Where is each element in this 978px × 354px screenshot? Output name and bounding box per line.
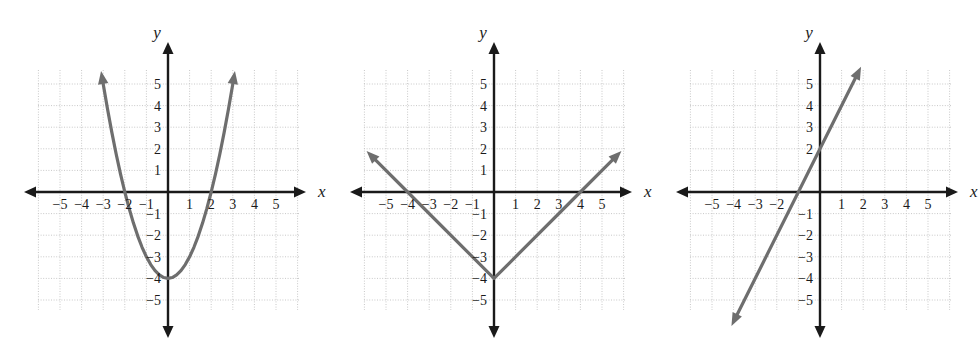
y-axis-arrow-down xyxy=(815,326,826,338)
y-tick-label: 2 xyxy=(154,142,161,157)
x-tick-label: −4 xyxy=(74,197,89,212)
x-tick-label: 4 xyxy=(251,197,258,212)
x-axis-arrow-right xyxy=(620,187,632,198)
y-axis-label: y xyxy=(803,23,813,42)
graph-figure-page: −5−4−3−2−11234554321−1−2−3−4−5 xy −5−4−3… xyxy=(0,0,978,354)
y-tick-label: 4 xyxy=(480,99,487,114)
y-tick-label: 2 xyxy=(480,142,487,157)
y-tick-label: −1 xyxy=(798,207,813,222)
x-axis-arrow-right xyxy=(294,187,306,198)
x-tick-label: 2 xyxy=(208,197,215,212)
x-tick-label: 1 xyxy=(186,197,193,212)
x-tick-label: 3 xyxy=(229,197,236,212)
y-tick-label: −1 xyxy=(146,207,161,222)
x-tick-label: −5 xyxy=(705,197,720,212)
x-axis-arrow-left xyxy=(676,187,688,198)
x-tick-label: 2 xyxy=(860,197,867,212)
graph-1-axes xyxy=(24,42,306,338)
x-tick-label: −5 xyxy=(53,197,68,212)
x-tick-label: 3 xyxy=(881,197,888,212)
x-tick-label: −2 xyxy=(117,197,132,212)
x-tick-label: 1 xyxy=(838,197,845,212)
y-tick-label: −2 xyxy=(472,228,487,243)
x-tick-label: −3 xyxy=(748,197,763,212)
curve-arrow-start xyxy=(731,312,741,326)
y-axis-arrow-up xyxy=(489,42,500,54)
y-axis-label: y xyxy=(151,23,161,42)
y-tick-label: −2 xyxy=(798,228,813,243)
graph-panel-2: −5−4−3−2−11234554321−1−2−3−4−5 xy xyxy=(326,0,652,354)
y-axis-arrow-up xyxy=(815,42,826,54)
graph-1-axis-letters: xy xyxy=(151,23,326,201)
y-tick-label: −2 xyxy=(146,228,161,243)
y-tick-label: 1 xyxy=(154,163,161,178)
x-axis-arrow-left xyxy=(24,187,36,198)
y-tick-label: 3 xyxy=(154,120,161,135)
y-tick-label: −4 xyxy=(146,271,161,286)
y-tick-label: −4 xyxy=(472,271,487,286)
graph-3-axis-letters: xy xyxy=(803,23,978,201)
x-axis-label: x xyxy=(317,182,326,201)
graph-panel-3: −5−4−3−2123455432−1−2−3−4−5 xy xyxy=(652,0,978,354)
y-tick-label: 5 xyxy=(806,77,813,92)
graph-2-axis-letters: xy xyxy=(477,23,652,201)
x-tick-label: −3 xyxy=(96,197,111,212)
y-axis-label: y xyxy=(477,23,487,42)
x-tick-label: 2 xyxy=(534,197,541,212)
y-axis-arrow-down xyxy=(489,326,500,338)
y-tick-label: −1 xyxy=(472,207,487,222)
y-tick-label: −5 xyxy=(472,293,487,308)
x-tick-label: −4 xyxy=(726,197,741,212)
x-tick-label: −5 xyxy=(379,197,394,212)
y-tick-label: −5 xyxy=(798,293,813,308)
graph-panel-1: −5−4−3−2−11234554321−1−2−3−4−5 xy xyxy=(0,0,326,354)
y-axis-arrow-down xyxy=(163,326,174,338)
y-tick-label: 5 xyxy=(154,77,161,92)
y-tick-label: 4 xyxy=(806,99,813,114)
x-tick-label: 4 xyxy=(577,197,584,212)
curve-arrow-end xyxy=(851,67,861,81)
y-tick-label: 4 xyxy=(154,99,161,114)
x-tick-label: −4 xyxy=(400,197,415,212)
x-tick-label: 5 xyxy=(599,197,606,212)
x-tick-label: 1 xyxy=(512,197,519,212)
graph-2-axes xyxy=(350,42,632,338)
y-tick-label: 3 xyxy=(480,120,487,135)
y-tick-label: −3 xyxy=(798,250,813,265)
y-axis-arrow-up xyxy=(163,42,174,54)
y-tick-label: 5 xyxy=(480,77,487,92)
y-tick-label: −4 xyxy=(798,271,813,286)
graph-3-axes xyxy=(676,42,958,338)
x-tick-label: −2 xyxy=(769,197,784,212)
x-tick-label: 3 xyxy=(555,197,562,212)
y-tick-label: −3 xyxy=(146,250,161,265)
x-tick-label: −2 xyxy=(443,197,458,212)
graph-2-svg: −5−4−3−2−11234554321−1−2−3−4−5 xy xyxy=(326,0,652,354)
x-axis-arrow-right xyxy=(946,187,958,198)
y-tick-label: 3 xyxy=(806,120,813,135)
y-tick-label: 1 xyxy=(480,163,487,178)
y-tick-label: 2 xyxy=(806,142,813,157)
x-axis-label: x xyxy=(643,182,652,201)
x-axis-label: x xyxy=(969,182,978,201)
y-tick-label: −3 xyxy=(472,250,487,265)
x-tick-label: 5 xyxy=(925,197,932,212)
graph-1-svg: −5−4−3−2−11234554321−1−2−3−4−5 xy xyxy=(0,0,326,354)
x-tick-label: 5 xyxy=(273,197,280,212)
x-tick-label: −3 xyxy=(422,197,437,212)
x-tick-label: 4 xyxy=(903,197,910,212)
y-tick-label: −5 xyxy=(146,293,161,308)
graph-3-svg: −5−4−3−2123455432−1−2−3−4−5 xy xyxy=(652,0,978,354)
x-axis-arrow-left xyxy=(350,187,362,198)
